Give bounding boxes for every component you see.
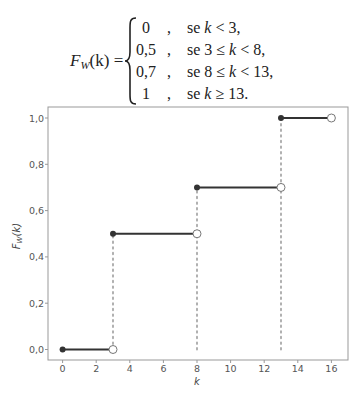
closed-point-icon <box>194 184 200 190</box>
open-point-icon <box>327 114 335 122</box>
y-tick-label: 0,6 <box>29 205 44 216</box>
x-tick-label: 8 <box>194 363 200 374</box>
step-segments <box>60 114 336 354</box>
closed-point-icon <box>110 231 116 237</box>
x-tick-label: 14 <box>292 363 304 374</box>
x-tick-label: 2 <box>93 363 99 374</box>
y-axis-label: FW(k) <box>11 223 24 249</box>
closed-point-icon <box>60 347 66 353</box>
y-tick-label: 0,2 <box>29 298 44 309</box>
open-point-icon <box>193 230 201 238</box>
y-tick-label: 1,0 <box>29 113 44 124</box>
x-tick-label: 10 <box>225 363 237 374</box>
x-tick-label: 16 <box>325 363 337 374</box>
y-tick-label: 0,0 <box>29 344 44 355</box>
open-point-icon <box>277 183 285 191</box>
x-tick-label: 4 <box>127 363 133 374</box>
x-axis-label: k <box>194 376 201 387</box>
y-tick-label: 0,4 <box>29 251 44 262</box>
y-axis-ticks: 0,00,20,40,60,81,0 <box>29 113 48 356</box>
closed-point-icon <box>278 115 284 121</box>
cdf-step-chart: 0246810121416 0,00,20,40,60,81,0 k FW(k) <box>0 0 364 397</box>
x-tick-label: 0 <box>60 363 66 374</box>
x-tick-label: 6 <box>160 363 166 374</box>
open-point-icon <box>109 346 117 354</box>
x-tick-label: 12 <box>258 363 270 374</box>
x-axis-ticks: 0246810121416 <box>60 360 338 374</box>
y-tick-label: 0,8 <box>29 159 44 170</box>
